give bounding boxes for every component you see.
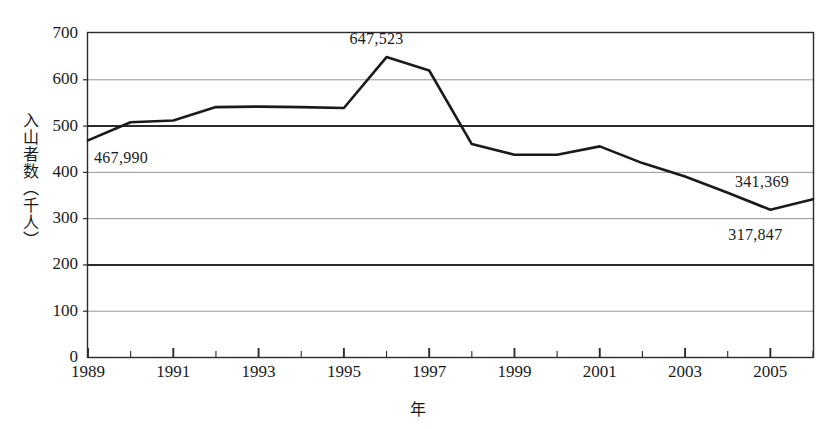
x-tick-label-2001: 2001 <box>583 362 617 382</box>
y-axis-title: 入山者数（千人） <box>12 112 38 248</box>
x-axis-ticks <box>88 348 813 357</box>
x-tick-label-1997: 1997 <box>412 362 446 382</box>
plot-frame <box>88 33 814 358</box>
x-tick-label-1989: 1989 <box>71 362 105 382</box>
x-tick-label-1993: 1993 <box>242 362 276 382</box>
x-tick-label-1991: 1991 <box>156 362 190 382</box>
line-chart-figure: 0100200300400500600700 19891991199319951… <box>0 0 836 429</box>
x-tick-label-2003: 2003 <box>668 362 702 382</box>
x-tick-label-1995: 1995 <box>327 362 361 382</box>
x-tick-label-2005: 2005 <box>753 362 787 382</box>
data-label-1989: 467,990 <box>94 149 148 167</box>
y-tick-label-600: 600 <box>28 69 78 89</box>
data-label-2006: 341,369 <box>735 173 789 191</box>
y-tick-label-700: 700 <box>28 23 78 43</box>
y-tick-label-100: 100 <box>28 301 78 321</box>
x-tick-label-1999: 1999 <box>497 362 531 382</box>
x-axis-title: 年 <box>0 396 836 420</box>
y-tick-label-200: 200 <box>28 254 78 274</box>
data-label-2005: 317,847 <box>728 226 782 244</box>
data-label-1996: 647,523 <box>350 30 404 48</box>
